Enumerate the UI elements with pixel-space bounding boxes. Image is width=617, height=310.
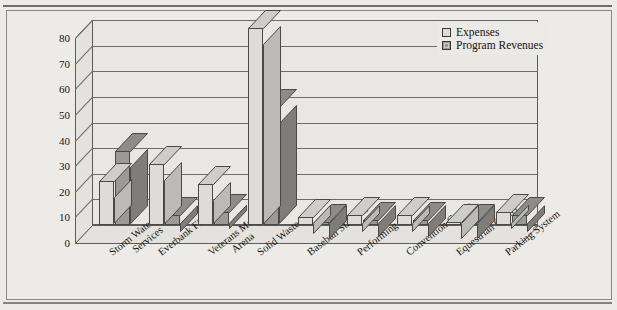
legend-label-expenses: Expenses <box>456 26 499 38</box>
bar-chart: 01020304050607080 $ Millions Storm Water… <box>0 0 617 310</box>
bar-expenses-3 <box>248 28 263 225</box>
bar-expenses-0 <box>99 181 114 225</box>
figure-page: 01020304050607080 $ Millions Storm Water… <box>0 0 617 310</box>
chart-legend: Expenses Program Revenues <box>437 22 549 55</box>
bar-expenses-1 <box>149 164 164 226</box>
bar-expenses-6 <box>397 215 412 225</box>
bar-expenses-5 <box>347 215 362 225</box>
legend-item-program-revenues: Program Revenues <box>442 39 543 51</box>
bar-expenses-2 <box>198 184 213 225</box>
bar-expenses-4 <box>298 217 313 225</box>
expenses-swatch-icon <box>442 28 451 37</box>
bar-expenses-7 <box>446 222 461 225</box>
bar-expenses-8 <box>496 212 511 225</box>
program-revenues-swatch-icon <box>442 41 451 50</box>
legend-label-program-revenues: Program Revenues <box>456 39 543 51</box>
legend-item-expenses: Expenses <box>442 26 543 38</box>
